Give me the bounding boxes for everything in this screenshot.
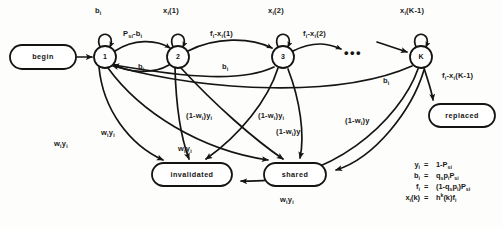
state-node-2-label: 2 [168,53,188,60]
chain-ellipsis: ••• [344,46,362,59]
edge-label-2-to-3: fi-xi(1) [210,30,233,38]
selfloop-3 [277,34,290,47]
equation-rhs-b: qspiPsi [436,172,459,179]
edge-label-K-to-replaced: fi-xi(K-1) [442,72,473,80]
edge-label-selfloop-2: xi(1) [163,7,179,15]
edge-label-K-to-1: bi [383,77,390,85]
edge-label-2-to-shared: (1-wi)yi [258,112,284,120]
edge-label-1-to-invalidated: wiyi [54,140,68,148]
state-node-1-label: 1 [95,53,115,60]
state-diagram-figure: 1 2 3 K begin replaced invalidated share… [0,0,503,228]
edge-label-3-to-invalidated: wiyi [178,145,192,153]
edge-label-selfloop-K: xi(K-1) [400,7,424,15]
edge-label-1-to-2: Psi-bi [123,30,142,38]
equation-rhs-x: hk(k)fi [436,194,456,201]
edge-label-K-to-shared: (1-wi)y [345,117,370,125]
edge-K-to-replaced [424,68,433,100]
edge-1-to-2 [115,42,170,51]
terminal-label-invalidated: invalidated [152,171,232,178]
selfloop-1 [99,34,112,47]
equation-rhs-f: (1-qspi)Psi [436,183,470,190]
equation-rhs-y: 1-Psi [436,161,452,168]
edge-label-3-to-shared: (1-wi)y [276,128,301,136]
equation-lhs-b: bi [386,172,420,179]
state-node-3-label: 3 [273,53,293,60]
equation-rel-x: = [424,194,428,201]
edge-label-3-to-1: bi [222,63,229,71]
terminal-label-begin: begin [10,53,76,60]
edge-prev-to-K [377,42,407,52]
equation-rel-b: = [424,172,428,179]
terminal-label-shared: shared [264,171,326,178]
edge-label-1-to-shared: (1-wi)yi [186,112,212,120]
state-node-K-label: K [411,53,431,60]
edge-label-3-to-next: fi-xi(2) [303,30,326,38]
edge-label-2-to-1: bi [138,63,145,71]
equation-lhs-f: fi [386,183,420,190]
edge-3-to-shared [288,69,302,158]
selfloop-2 [172,34,185,47]
edge-label-selfloop-1: bi [95,7,102,15]
edge-label-selfloop-3: xi(2) [268,7,284,15]
equation-rel-y: = [424,161,428,168]
terminal-label-replaced: replaced [429,112,495,119]
edge-2-to-3 [188,40,272,51]
edge-label-K-to-invalidated: wiyi [280,196,294,204]
edge-3-to-next [293,44,341,51]
edge-label-2-to-invalidated: wiyi [101,129,115,137]
equation-lhs-x: xi(k) [386,194,420,201]
equation-rel-f: = [424,183,428,190]
equation-lhs-y: yi [386,161,420,168]
edges-layer [77,34,433,181]
selfloop-K [415,34,428,47]
